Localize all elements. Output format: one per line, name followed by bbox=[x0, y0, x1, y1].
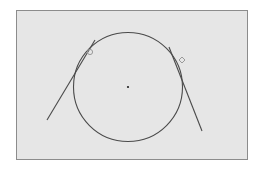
circle-center-point bbox=[127, 86, 129, 88]
tangent-circle-diagram bbox=[0, 0, 261, 170]
diagram-stage bbox=[0, 0, 261, 170]
